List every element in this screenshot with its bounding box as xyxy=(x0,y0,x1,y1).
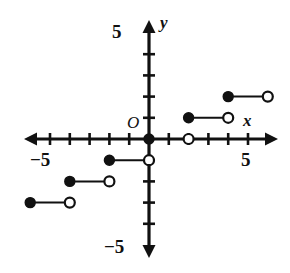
closed-endpoint-dot xyxy=(184,113,194,123)
open-endpoint-dot xyxy=(104,176,114,186)
open-endpoint-dot xyxy=(263,92,273,102)
closed-endpoint-dot xyxy=(144,134,154,144)
y-axis-tick-label-positive-5: 5 xyxy=(112,22,122,41)
y-axis-arrow-up xyxy=(143,20,156,33)
open-endpoint-dot xyxy=(65,198,75,208)
closed-endpoint-dot xyxy=(25,198,35,208)
open-endpoint-dot xyxy=(223,113,233,123)
graph-canvas xyxy=(0,0,290,273)
x-axis-label: x xyxy=(243,112,252,129)
coordinate-plane-figure: x y O −5 5 5 −5 xyxy=(0,0,290,273)
y-axis-label: y xyxy=(160,14,168,31)
x-axis-tick-label-positive-5: 5 xyxy=(241,150,251,169)
open-endpoint-dot xyxy=(144,155,154,165)
x-axis-arrow-right xyxy=(265,133,278,146)
origin-label: O xyxy=(127,114,139,131)
closed-endpoint-dot xyxy=(223,92,233,102)
open-endpoint-dot xyxy=(184,134,194,144)
y-axis-tick-label-negative-5: −5 xyxy=(104,237,124,256)
closed-endpoint-dot xyxy=(65,176,75,186)
x-axis-tick-label-negative-5: −5 xyxy=(30,150,50,169)
y-axis-arrow-down xyxy=(143,245,156,258)
closed-endpoint-dot xyxy=(104,155,114,165)
x-axis-arrow-left xyxy=(24,133,37,146)
